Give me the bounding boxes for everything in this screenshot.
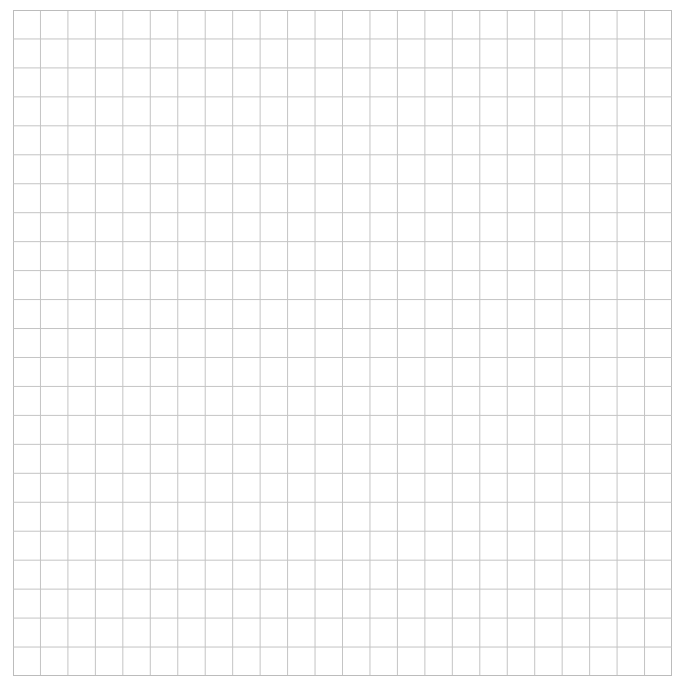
grid-paper bbox=[13, 10, 672, 676]
